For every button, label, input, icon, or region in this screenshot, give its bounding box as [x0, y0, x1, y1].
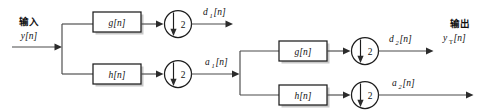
stage1-low-downsampler[interactable] [165, 61, 192, 88]
stage1-approx-wire-out [192, 71, 240, 78]
stage1-high-wire-mid [141, 21, 164, 28]
stage1-high-downsampler[interactable] [165, 11, 192, 38]
stage2-detail-tail: [n] [400, 34, 412, 44]
stage2-approx-label: a 2 [n] [392, 78, 415, 90]
stage1-low-factor-label: 2 [181, 70, 186, 80]
stage2-highpass-label: g[n] [295, 47, 312, 57]
output-signal-label: y T [n] [442, 33, 466, 45]
stage2-low-wire-mid [327, 92, 351, 99]
stage2-detail-label: d 2 [n] [389, 34, 412, 46]
stage1-approx-sub: 1 [212, 62, 215, 69]
stage1-detail-label: d 1 [n] [203, 7, 226, 19]
stage1-approx-tail: [n] [216, 57, 228, 67]
input-signal-label: y[n] [20, 31, 38, 41]
input-cjk-label: 输入 [19, 16, 39, 27]
diagram-canvas: 输入 y[n] g[n] h[n] 2 2 d 1 [n] a 1 [n] g[… [0, 0, 482, 111]
stage1-detail-tail: [n] [214, 7, 226, 17]
output-cjk-label: 输出 [450, 18, 470, 29]
stage1-lowpass-label: h[n] [109, 70, 126, 80]
stage2-high-downsampler[interactable] [352, 38, 379, 65]
stage1-low-wire-mid [141, 71, 164, 78]
output-signal-sub: T [449, 38, 453, 45]
stage2-detail-base: d [389, 34, 394, 44]
stage1-detail-wire-out [192, 21, 234, 28]
stage2-detail-wire-out [379, 48, 434, 55]
stage2-low-factor-label: 2 [368, 91, 373, 101]
stage1-detail-base: d [203, 7, 208, 17]
stage2-low-downsampler[interactable] [352, 82, 379, 109]
stage2-high-factor-label: 2 [368, 47, 373, 57]
output-signal-tail: [n] [454, 33, 466, 43]
stage1-approx-label: a 1 [n] [205, 57, 228, 69]
stage2-approx-base: a [392, 78, 397, 88]
stage2-approx-tail: [n] [403, 78, 415, 88]
stage1-highpass-label: g[n] [109, 18, 126, 28]
stage1-approx-base: a [205, 57, 210, 67]
stage2-approx-wire-out [379, 92, 474, 99]
input-wire [12, 44, 62, 51]
stage1-high-factor-label: 2 [181, 20, 186, 30]
filter-bank-diagram: 输入 y[n] g[n] h[n] 2 2 d 1 [n] a 1 [n] g[… [0, 0, 482, 111]
stage1-detail-sub: 1 [210, 12, 213, 19]
output-signal-base: y [442, 33, 448, 43]
stage2-high-wire-mid [327, 48, 351, 55]
stage2-lowpass-label: h[n] [295, 91, 312, 101]
